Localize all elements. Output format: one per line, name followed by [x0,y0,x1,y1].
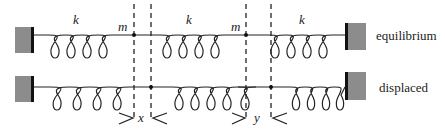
mass-1-bottom [149,85,153,89]
mass-label-2: m [231,19,240,34]
row-equilibrium: k k k m m equilibrium [15,12,437,58]
mass-label-1: m [118,19,127,34]
row-label-equilibrium: equilibrium [376,28,437,43]
spring-label-1: k [73,12,79,27]
right-wall-top [347,23,366,50]
spring-label-3: k [299,12,305,27]
left-wall-bottom [15,76,32,102]
displacement-label-y: y [252,110,260,125]
displacement-label-x: x [137,110,144,125]
spring-label-2: k [186,12,192,27]
arrow-x-right-icon [153,113,167,124]
left-wall-top [15,27,32,53]
spring-2-extra-coil-bottom [238,87,256,110]
spring-2-bottom [151,87,271,110]
coupled-oscillator-diagram: k k k m m equilibrium x [0,0,445,136]
left-wall-edge-bottom [31,76,34,102]
mass-1-top [132,33,136,37]
arrow-y-right-icon [273,113,287,124]
mass-2-top [244,33,248,37]
right-wall-bottom [347,72,366,100]
left-wall-edge-top [31,27,34,53]
right-wall-edge-top [345,23,348,50]
dashed-reference-lines [134,4,271,120]
row-label-displaced: displaced [379,80,429,95]
spring-3-top [246,35,345,58]
spring-2-top [134,35,246,58]
spring-1-top [34,35,134,58]
arrow-y-left-icon [232,113,245,124]
right-wall-edge-bottom [345,72,348,100]
mass-2-bottom [269,85,273,89]
row-displaced: x y displaced [15,72,429,125]
arrow-x-left-icon [119,113,133,124]
spring-3-bottom [271,87,345,110]
